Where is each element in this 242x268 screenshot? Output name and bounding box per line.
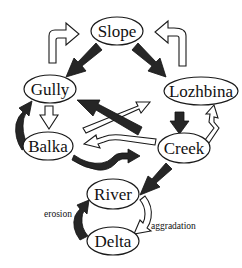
- node-delta-label: Delta: [95, 232, 132, 251]
- node-gully-label: Gully: [31, 80, 70, 99]
- arrow-slope-to-lozhbina: [132, 43, 166, 77]
- node-slope-label: Slope: [98, 22, 137, 41]
- arrow-river-to-delta: [134, 196, 151, 234]
- node-river: River: [87, 179, 139, 209]
- arrow-slope-to-gully: [66, 43, 102, 77]
- arrow-gully-to-slope: [49, 23, 79, 63]
- node-creek: Creek: [158, 133, 210, 163]
- node-delta: Delta: [87, 227, 139, 255]
- arrow-creek-to-balka: [84, 135, 156, 148]
- node-balka: Balka: [23, 132, 73, 160]
- landform-transition-diagram: Slope Gully Lozhbina Balka Creek River D…: [0, 0, 242, 268]
- node-slope: Slope: [91, 17, 143, 45]
- arrow-delta-to-river: [74, 200, 89, 240]
- arrow-lozhbina-to-creek: [170, 112, 189, 134]
- node-lozhbina: Lozhbina: [164, 77, 238, 105]
- node-lozhbina-label: Lozhbina: [169, 82, 234, 101]
- node-balka-label: Balka: [28, 137, 68, 156]
- arrow-creek-to-river: [140, 163, 172, 195]
- aggradation-label: aggradation: [151, 221, 196, 231]
- erosion-label: erosion: [44, 209, 72, 219]
- arrow-gully-to-balka: [40, 106, 58, 129]
- node-creek-label: Creek: [164, 139, 205, 158]
- arrow-creek-to-lozhbina: [205, 105, 219, 143]
- node-river-label: River: [94, 185, 132, 204]
- arrow-balka-to-creek: [72, 149, 140, 170]
- node-gully: Gully: [24, 75, 76, 103]
